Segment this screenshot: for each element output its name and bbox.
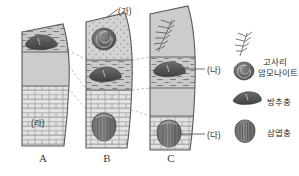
legend-icons bbox=[233, 32, 261, 143]
legend-ammonite-icon bbox=[234, 62, 254, 80]
annotation-label-da: (다) bbox=[207, 128, 221, 140]
fossil-trilobite-b[interactable] bbox=[92, 113, 116, 141]
correlation-line-limestone-top bbox=[68, 88, 87, 110]
annotation-label-ra: (라) bbox=[31, 116, 45, 128]
column-c[interactable] bbox=[146, 2, 202, 156]
correlation-line-shale-top-bc bbox=[132, 57, 151, 60]
legend-label-trilobite: 삼엽충 bbox=[267, 126, 291, 138]
annotation-label-na: (나) bbox=[207, 63, 221, 75]
annotation-label-ga: (가) bbox=[118, 4, 132, 16]
layer-a-mudstone bbox=[18, 52, 74, 86]
column-letter-c: C bbox=[159, 152, 183, 164]
geologic-columns-diagram bbox=[0, 0, 299, 176]
layer-c-mudstone-top bbox=[146, 2, 202, 57]
layer-a-limestone bbox=[18, 86, 74, 152]
correlation-line-shale-base-bc bbox=[132, 88, 151, 90]
column-b[interactable] bbox=[82, 8, 138, 154]
fossil-ammonite-b[interactable] bbox=[92, 28, 116, 50]
column-a[interactable] bbox=[18, 20, 74, 152]
correlation-line-shale-top bbox=[68, 50, 87, 60]
column-letter-b: B bbox=[95, 152, 119, 164]
column-letter-a: A bbox=[31, 152, 55, 164]
legend-fern-icon bbox=[235, 32, 252, 56]
legend-label-fusulinid: 방추충 bbox=[267, 95, 291, 107]
correlation-line-limestone-top-bc bbox=[131, 110, 151, 116]
figure-canvas: (가) (나) (다) (라) A B C 고사리 암모나이트 방추충 삼엽충 bbox=[0, 0, 299, 176]
legend-label-ammonite: 암모나이트 bbox=[258, 66, 298, 78]
correlation-line-shale-base bbox=[69, 66, 87, 90]
fossil-trilobite-c[interactable] bbox=[157, 120, 181, 147]
legend-fusulinid-icon bbox=[233, 92, 261, 105]
legend-trilobite-icon bbox=[235, 120, 255, 143]
